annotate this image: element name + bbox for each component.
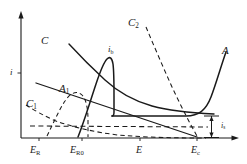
delta-annotation-label: is [221,122,225,131]
axis-group [18,11,240,141]
x-tick-label-e: E [136,145,142,155]
y-axis-label: i [10,68,13,77]
peak-label-ib-subscript: b [111,49,114,55]
delta-arrowhead-down [209,133,213,138]
x-tick-label-er: ER [30,145,41,156]
curve-a [112,52,226,116]
curve-c2 [146,27,197,136]
peak-label-ib: ib [108,45,113,56]
curve-label-a: A [222,45,229,56]
x-tick-label-ec: Ec [191,145,200,156]
y-axis-arrowhead [18,11,23,19]
curve-label-c1: C1 [26,98,37,111]
curve-label-c: C [41,35,48,46]
plot-canvas [0,0,247,164]
x-axis-arrowhead [232,135,240,140]
x-tick-label-er-subscript: R [36,149,40,156]
delta-annotation-arrow [204,116,219,138]
secondary-emission-figure: i C C1 C2 A A1 ib is ER ER0 E Ec [0,0,247,164]
x-tick-label-er0-subscript: R0 [76,149,84,156]
curve-label-a1: A1 [59,83,69,96]
curve-label-c2: C2 [128,17,139,30]
x-tick-label-ec-subscript: c [197,149,200,156]
curve-ib [78,58,114,137]
curve-a1 [47,93,88,137]
curve-label-c2-subscript: 2 [135,22,139,30]
delta-arrowhead-up [209,116,213,121]
x-tick-label-er0: ER0 [70,145,84,156]
dashed-reference-level [30,126,208,127]
curve-label-c1-subscript: 1 [33,103,37,111]
curve-c [69,44,214,114]
delta-annotation-subscript: s [223,124,225,130]
curve-label-a1-subscript: 1 [66,88,70,96]
